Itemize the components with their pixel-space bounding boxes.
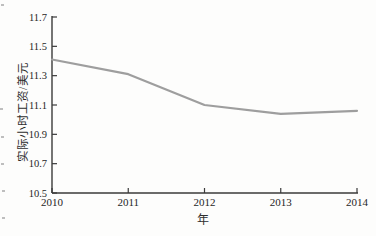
y-tick-label: 10.9	[29, 129, 47, 140]
y-tick-label: 10.7	[29, 158, 47, 169]
scan-artifact-mark	[1, 4, 4, 6]
chart-canvas: 11.711.511.311.110.910.710.5201020112012…	[0, 0, 376, 236]
x-tick-label: 2014	[346, 196, 369, 208]
y-tick-label: 11.5	[29, 41, 47, 52]
real-hourly-wage-line-chart: 11.711.511.311.110.910.710.5201020112012…	[0, 0, 376, 236]
scan-artifact-mark	[1, 136, 4, 138]
wage-series-line	[52, 60, 357, 114]
y-axis-label: 实际小时工资/美元	[14, 62, 30, 162]
y-tick-label: 11.1	[29, 100, 47, 111]
scan-artifact-mark	[0, 108, 3, 110]
scan-artifact-mark	[2, 217, 5, 219]
y-tick-label: 11.3	[29, 70, 47, 81]
scan-artifact-mark	[2, 190, 5, 192]
x-axis-label: 年	[197, 210, 209, 228]
scan-artifact-mark	[1, 163, 4, 165]
y-tick-label: 11.7	[29, 12, 47, 23]
x-tick-label: 2013	[270, 196, 293, 208]
x-tick-label: 2012	[194, 196, 216, 208]
x-tick-label: 2010	[41, 196, 64, 208]
x-tick-label: 2011	[117, 196, 139, 208]
